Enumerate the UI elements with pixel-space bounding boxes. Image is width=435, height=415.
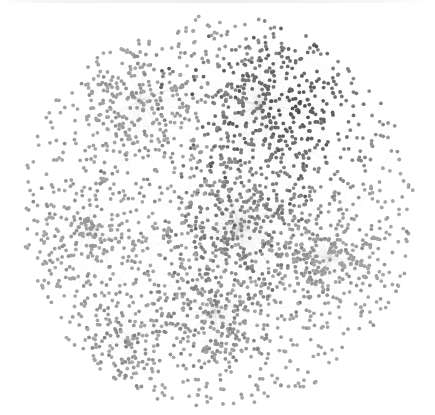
graph-node[interactable] <box>154 148 158 152</box>
graph-node[interactable] <box>145 334 149 338</box>
graph-node[interactable] <box>180 201 184 205</box>
graph-node[interactable] <box>117 240 121 244</box>
graph-node[interactable] <box>325 102 329 106</box>
graph-node[interactable] <box>218 350 222 354</box>
graph-node[interactable] <box>253 66 257 70</box>
graph-node[interactable] <box>263 139 267 143</box>
graph-node[interactable] <box>187 258 191 262</box>
graph-node[interactable] <box>114 132 118 136</box>
graph-node[interactable] <box>235 147 239 151</box>
graph-node[interactable] <box>213 352 217 356</box>
graph-node[interactable] <box>232 402 236 406</box>
graph-node[interactable] <box>309 85 313 89</box>
graph-node[interactable] <box>139 325 143 329</box>
graph-node[interactable] <box>122 143 126 147</box>
graph-node[interactable] <box>262 219 266 223</box>
graph-node[interactable] <box>255 208 259 212</box>
graph-node[interactable] <box>214 248 218 252</box>
graph-node[interactable] <box>383 200 387 204</box>
graph-node[interactable] <box>203 100 207 104</box>
graph-node[interactable] <box>235 313 239 317</box>
graph-node[interactable] <box>292 120 296 124</box>
graph-node[interactable] <box>252 347 256 351</box>
graph-node[interactable] <box>88 226 92 230</box>
graph-node[interactable] <box>169 229 173 233</box>
graph-node[interactable] <box>379 307 383 311</box>
graph-node[interactable] <box>52 190 56 194</box>
graph-node[interactable] <box>133 334 137 338</box>
graph-node[interactable] <box>107 238 111 242</box>
graph-node[interactable] <box>243 220 247 224</box>
graph-node[interactable] <box>215 31 219 35</box>
graph-node[interactable] <box>297 381 301 385</box>
graph-node[interactable] <box>87 279 91 283</box>
graph-node[interactable] <box>312 238 316 242</box>
graph-node[interactable] <box>128 106 132 110</box>
graph-node[interactable] <box>113 141 117 145</box>
graph-node[interactable] <box>347 120 351 124</box>
graph-node[interactable] <box>278 349 282 353</box>
graph-node[interactable] <box>222 93 226 97</box>
graph-node[interactable] <box>164 219 168 223</box>
graph-node[interactable] <box>325 52 329 56</box>
graph-node[interactable] <box>88 232 92 236</box>
graph-node[interactable] <box>192 364 196 368</box>
graph-node[interactable] <box>107 291 111 295</box>
graph-node[interactable] <box>42 230 46 234</box>
graph-node[interactable] <box>248 170 252 174</box>
graph-node[interactable] <box>45 172 49 176</box>
graph-node[interactable] <box>115 343 119 347</box>
graph-node[interactable] <box>340 95 344 99</box>
graph-node[interactable] <box>366 295 370 299</box>
graph-node[interactable] <box>226 145 230 149</box>
graph-node[interactable] <box>87 336 91 340</box>
graph-node[interactable] <box>319 121 323 125</box>
graph-node[interactable] <box>110 228 114 232</box>
graph-node[interactable] <box>224 357 228 361</box>
graph-node[interactable] <box>256 39 260 43</box>
graph-node[interactable] <box>92 357 96 361</box>
graph-node[interactable] <box>73 343 77 347</box>
graph-node[interactable] <box>85 118 89 122</box>
graph-node[interactable] <box>74 131 78 135</box>
graph-node[interactable] <box>171 94 175 98</box>
graph-node[interactable] <box>404 254 408 258</box>
graph-node[interactable] <box>244 37 248 41</box>
graph-node[interactable] <box>82 185 86 189</box>
graph-node[interactable] <box>80 194 84 198</box>
graph-node[interactable] <box>235 124 239 128</box>
graph-node[interactable] <box>137 361 141 365</box>
graph-node[interactable] <box>310 137 314 141</box>
graph-node[interactable] <box>164 129 168 133</box>
graph-node[interactable] <box>122 189 126 193</box>
graph-node[interactable] <box>80 189 84 193</box>
graph-node[interactable] <box>252 208 256 212</box>
graph-node[interactable] <box>253 400 257 404</box>
graph-node[interactable] <box>257 277 261 281</box>
graph-node[interactable] <box>309 338 313 342</box>
graph-node[interactable] <box>55 158 59 162</box>
graph-node[interactable] <box>98 70 102 74</box>
graph-node[interactable] <box>346 327 350 331</box>
graph-node[interactable] <box>100 352 104 356</box>
graph-node[interactable] <box>270 236 274 240</box>
graph-node[interactable] <box>160 83 164 87</box>
graph-node[interactable] <box>268 78 272 82</box>
graph-node[interactable] <box>264 214 268 218</box>
graph-node[interactable] <box>233 134 237 138</box>
graph-node[interactable] <box>229 291 233 295</box>
graph-node[interactable] <box>90 91 94 95</box>
graph-node[interactable] <box>349 186 353 190</box>
graph-node[interactable] <box>133 355 137 359</box>
graph-node[interactable] <box>178 106 182 110</box>
graph-node[interactable] <box>293 384 297 388</box>
graph-node[interactable] <box>271 182 275 186</box>
graph-node[interactable] <box>260 88 264 92</box>
graph-node[interactable] <box>278 204 282 208</box>
graph-node[interactable] <box>180 213 184 217</box>
graph-node[interactable] <box>370 227 374 231</box>
graph-node[interactable] <box>130 74 134 78</box>
graph-node[interactable] <box>56 258 60 262</box>
graph-node[interactable] <box>266 294 270 298</box>
graph-node[interactable] <box>314 244 318 248</box>
